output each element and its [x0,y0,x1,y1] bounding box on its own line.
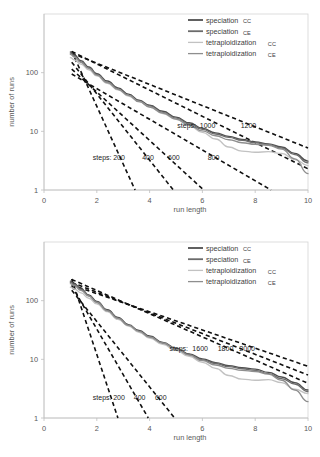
legend-subscript-speciation-CC: CC [243,246,251,252]
reference-line-400 [72,62,174,190]
legend-subscript-speciation-CE: CE [243,258,251,264]
line-chart-top: 1101000246810run lengthnumber of runsste… [0,0,320,228]
x-tick-label: 2 [95,196,99,205]
legend-label-speciation-CC: speciation [206,16,238,25]
annotation-1200: 1200 [241,122,257,129]
legend-label-speciation-CE: speciation [206,255,238,264]
series-curve-tetraploidization-CC [70,58,308,166]
chart-panel-top: 1101000246810run lengthnumber of runsste… [0,0,320,228]
annotation-400: 400 [142,154,154,161]
x-tick-label: 10 [304,424,312,433]
reference-line-800 [72,74,271,190]
reference-line-200 [72,51,135,190]
legend-label-speciation-CE: speciation [206,27,238,36]
y-tick-label: 1 [34,414,38,423]
y-tick-label: 10 [30,355,38,364]
legend-subscript-speciation-CE: CE [243,30,251,36]
legend-subscript-tetraploidization-CC: CC [268,269,276,275]
x-tick-label: 0 [42,424,46,433]
annotation-1600: 1600 [192,345,208,352]
annotation-400: 400 [134,394,146,401]
legend-subscript-tetraploidization-CC: CC [268,41,276,47]
annotation-2000: 2000 [239,345,255,352]
legend-subscript-speciation-CC: CC [243,18,251,24]
x-tick-label: 6 [200,196,204,205]
x-tick-label: 10 [304,196,312,205]
y-tick-label: 1 [34,186,38,195]
legend-label-tetraploidization-CE: tetraploidization [206,49,256,58]
annotation-200: 200 [113,154,125,161]
series-curve-tetraploidization-CC [70,287,308,394]
x-tick-label: 8 [253,196,257,205]
y-tick-label: 100 [26,296,38,305]
annotation-steps: steps: [93,154,112,162]
annotation-steps: steps: [169,345,188,353]
y-tick-label: 10 [30,127,38,136]
reference-line-1800 [72,282,308,375]
reference-line-1000 [72,51,308,168]
legend-label-tetraploidization-CC: tetraploidization [206,266,256,275]
x-tick-label: 4 [148,424,152,433]
y-axis-title: number of runs [7,305,16,355]
legend-label-tetraploidization-CC: tetraploidization [206,38,256,47]
reference-line-1600 [72,279,308,383]
annotation-800: 800 [208,154,220,161]
x-tick-label: 8 [253,424,257,433]
legend-subscript-tetraploidization-CE: CE [268,280,276,286]
x-tick-label: 4 [148,196,152,205]
x-axis-title: run length [174,205,207,214]
legend-label-speciation-CC: speciation [206,244,238,253]
annotation-600: 600 [168,154,180,161]
annotation-200: 200 [113,394,125,401]
annotation-steps: steps: [177,122,196,130]
y-axis-title: number of runs [7,77,16,127]
annotation-1000: 1000 [200,122,216,129]
chart-panel-bottom: 1101000246810run lengthnumber of runsste… [0,228,320,456]
annotation-600: 600 [155,394,167,401]
legend-label-tetraploidization-CE: tetraploidization [206,277,256,286]
x-tick-label: 0 [42,196,46,205]
x-tick-label: 2 [95,424,99,433]
legend-subscript-tetraploidization-CE: CE [268,52,276,58]
annotation-1800: 1800 [218,345,234,352]
y-tick-label: 100 [26,68,38,77]
line-chart-bottom: 1101000246810run lengthnumber of runsste… [0,228,320,456]
x-axis-title: run length [174,433,207,442]
x-tick-label: 6 [200,424,204,433]
annotation-steps: steps: [93,394,112,402]
